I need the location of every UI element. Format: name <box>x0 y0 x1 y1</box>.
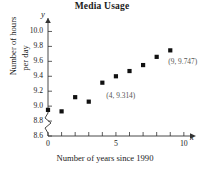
y-tick-label: 9.6 <box>21 57 43 65</box>
data-point <box>168 48 172 52</box>
x-tick-label: 5 <box>109 139 123 148</box>
y-tick-label: 9.8 <box>21 42 43 50</box>
data-point <box>127 69 131 73</box>
data-point <box>100 81 104 85</box>
data-point-group <box>46 48 172 113</box>
y-axis-arrow-icon <box>45 18 51 23</box>
data-point <box>59 109 63 113</box>
y-tick-label: 9.2 <box>21 87 43 95</box>
y-tick-label: 8.8 <box>21 117 43 125</box>
data-point <box>114 74 118 78</box>
y-tick-label: 8.6 <box>21 132 43 140</box>
x-tick-label: 0 <box>41 139 55 148</box>
x-axis-arrow-icon <box>190 133 196 139</box>
x-tick-marks <box>48 132 184 136</box>
data-point <box>87 100 91 104</box>
media-usage-scatter-chart: Media Usage Number of hours per day Numb… <box>0 0 204 169</box>
data-point <box>46 108 50 112</box>
axes-group <box>45 18 196 139</box>
y-tick-label: 10.0 <box>21 27 43 35</box>
point-annotation: (9, 9.747) <box>168 57 197 66</box>
data-point <box>141 63 145 67</box>
y-tick-marks <box>48 31 52 136</box>
x-tick-label: 10 <box>177 139 191 148</box>
data-point <box>73 95 77 99</box>
y-tick-label: 9.0 <box>21 102 43 110</box>
y-tick-label: 9.4 <box>21 72 43 80</box>
point-annotation: (4, 9.314) <box>106 91 135 100</box>
y-axis-break-icon <box>45 113 51 133</box>
data-point <box>155 55 159 59</box>
